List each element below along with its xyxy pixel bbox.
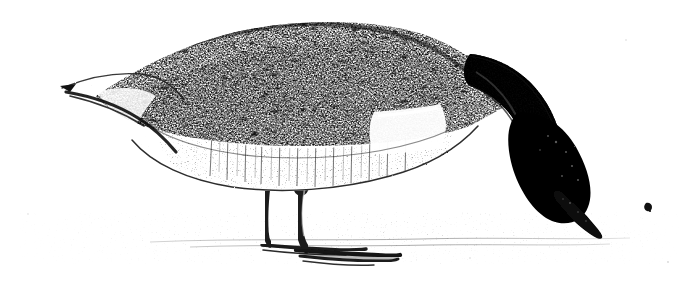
rear-flank-patch (370, 104, 447, 154)
brant-goose-illustration (0, 0, 692, 284)
illustration-canvas: Brant Goose Grazing brant-goose head low… (0, 0, 692, 284)
